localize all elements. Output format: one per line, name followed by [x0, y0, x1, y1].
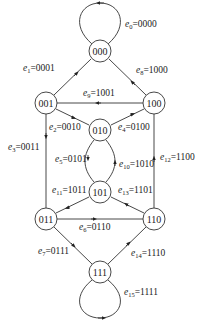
label-e12: e12=1100 [160, 152, 195, 163]
svg-text:111: 111 [93, 267, 107, 278]
node-110: 110 [143, 208, 165, 230]
label-e0: e0=0000 [125, 19, 157, 30]
label-e5: e5=0101 [55, 154, 87, 165]
node-011: 011 [35, 208, 57, 230]
label-e1: e1=0001 [23, 63, 55, 74]
state-graph: 000 001 100 010 101 011 110 111 e0=0000 … [0, 0, 200, 321]
svg-text:101: 101 [93, 187, 108, 198]
label-e13: e13=1101 [118, 185, 153, 196]
node-100: 100 [143, 92, 165, 114]
node-000: 000 [89, 40, 111, 62]
label-e11: e11=1011 [52, 185, 87, 196]
label-e4: e4=0100 [118, 122, 150, 133]
node-111: 111 [89, 261, 111, 283]
label-e3: e3=0011 [8, 142, 40, 153]
label-e2: e2=0010 [49, 122, 81, 133]
svg-text:001: 001 [39, 98, 54, 109]
label-e8: e8=1000 [136, 65, 168, 76]
label-e10: e10=1010 [119, 159, 154, 170]
node-001: 001 [35, 92, 57, 114]
node-101: 101 [89, 181, 111, 203]
edge-e11 [56, 197, 89, 213]
label-e15: e15=1111 [124, 287, 158, 298]
edge-e0 [80, 3, 121, 44]
label-e7: e7=0111 [38, 246, 69, 257]
edge-e10 [106, 140, 115, 182]
svg-text:000: 000 [93, 46, 108, 57]
svg-text:011: 011 [39, 214, 54, 225]
svg-text:010: 010 [93, 125, 108, 136]
edge-e15 [80, 280, 121, 318]
svg-text:110: 110 [147, 214, 162, 225]
label-e14: e14=1110 [131, 248, 166, 259]
node-010: 010 [89, 119, 111, 141]
svg-text:100: 100 [147, 98, 162, 109]
label-e6: e6=0110 [79, 222, 111, 233]
label-e9: e9=1001 [83, 88, 115, 99]
